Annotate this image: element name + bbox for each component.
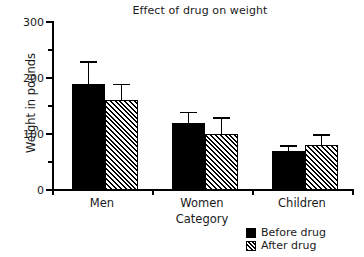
error-bar-cap	[313, 134, 330, 136]
x-tick-label-men: Men	[52, 196, 152, 210]
legend-swatch-before-drug	[246, 228, 256, 238]
legend-item-before-drug: Before drug	[246, 226, 326, 239]
bar-men-after-drug	[105, 100, 138, 190]
chart-title: Effect of drug on weight	[60, 4, 340, 17]
bar-chart-figure: Effect of drug on weight Weight in pound…	[0, 0, 364, 257]
x-tick-label-children: Children	[252, 196, 352, 210]
error-bar-cap	[213, 117, 230, 119]
error-bar-cap	[80, 61, 97, 63]
legend-label-before-drug: Before drug	[261, 226, 326, 239]
plot-area	[52, 22, 352, 190]
y-tick-label-200: 200	[0, 72, 44, 85]
bar-children-after-drug	[305, 145, 338, 190]
x-tick-label-women: Women	[152, 196, 252, 210]
y-tick-label-100: 100	[0, 128, 44, 141]
legend-label-after-drug: After drug	[261, 239, 316, 252]
error-bar-line	[221, 117, 223, 134]
error-bar-cap	[113, 84, 130, 86]
error-bar-cap	[180, 112, 197, 114]
legend-swatch-after-drug	[246, 241, 256, 251]
bar-men-before-drug	[72, 84, 105, 190]
error-bar-line	[88, 61, 90, 83]
error-bar-line	[121, 84, 123, 101]
x-axis-label: Category	[52, 212, 352, 226]
bar-women-after-drug	[205, 134, 238, 190]
error-bar-cap	[280, 145, 297, 147]
bar-children-before-drug	[272, 151, 305, 190]
bar-women-before-drug	[172, 123, 205, 190]
x-tick-end	[352, 189, 354, 195]
legend-item-after-drug: After drug	[246, 239, 326, 252]
y-tick-label-300: 300	[0, 16, 44, 29]
y-axis-tick-labels: 0100200300	[0, 0, 44, 257]
chart-legend: Before drug After drug	[246, 226, 326, 252]
y-tick-label-0: 0	[0, 184, 44, 197]
